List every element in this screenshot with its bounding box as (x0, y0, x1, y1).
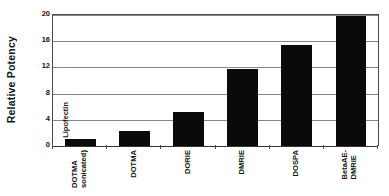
y-tick-label: 4 (32, 115, 50, 123)
x-tick-mark (269, 145, 270, 149)
bar-slot (270, 15, 324, 146)
x-tick-label: DMRIE (237, 150, 246, 174)
x-tick-label: BetaAE-DMRIE (340, 150, 359, 180)
x-tick-label-line2: DMRIE (350, 150, 359, 180)
bar-chart-figure: Relative Potency 048121620 Lipofectin DO… (0, 0, 389, 196)
x-tick-label: DOSPA (291, 150, 300, 176)
y-tick-label: 0 (32, 141, 50, 149)
x-tick-label-line1: DMRIE (237, 150, 246, 174)
x-tick-mark (52, 145, 53, 149)
x-label-slot: DMRIE (215, 150, 269, 196)
bar-slot (161, 15, 215, 146)
x-tick-label: DOTMA (129, 150, 138, 178)
bar (336, 16, 367, 146)
y-tick-label: 8 (32, 89, 50, 97)
x-label-slot: DOSPA (269, 150, 323, 196)
x-tick-label-line2: sonicated) (79, 150, 88, 188)
x-tick-label: DOTMAsonicated) (70, 150, 89, 188)
x-tick-label-line1: DOSPA (291, 150, 300, 176)
y-axis-tick-labels: 048121620 (30, 0, 50, 196)
bar-slot (324, 15, 378, 146)
x-tick-mark (323, 145, 324, 149)
x-label-slot: DOTMA (106, 150, 160, 196)
x-label-slot: DORIE (160, 150, 214, 196)
x-tick-mark (215, 145, 216, 149)
bar-slot (107, 15, 161, 146)
x-tick-label-line1: BetaAE- (340, 150, 349, 180)
plot-area (52, 14, 379, 146)
bar (173, 112, 204, 146)
y-tick-label: 16 (32, 36, 50, 44)
bar (119, 131, 150, 146)
bar-series (53, 15, 378, 146)
x-tick-mark (377, 145, 378, 149)
x-tick-label-line1: DOTMA (129, 150, 138, 178)
x-label-slot: DOTMAsonicated) (52, 150, 106, 196)
bar (227, 69, 258, 146)
y-axis-title-text: Relative Potency (5, 36, 17, 123)
y-tick-label: 20 (32, 10, 50, 18)
x-tick-mark (160, 145, 161, 149)
bar-slot (216, 15, 270, 146)
lipofectin-annotation-text: Lipofectin (61, 102, 70, 138)
x-tick-label: DORIE (183, 150, 192, 174)
x-tick-label-line1: DORIE (183, 150, 192, 174)
x-tick-label-line1: DOTMA (70, 160, 79, 188)
bar (281, 45, 312, 146)
x-tick-mark (106, 145, 107, 149)
y-tick-label: 12 (32, 63, 50, 71)
x-label-slot: BetaAE-DMRIE (323, 150, 377, 196)
lipofectin-annotation: Lipofectin (61, 84, 70, 138)
x-axis-tick-labels: DOTMAsonicated)DOTMADORIEDMRIEDOSPABetaA… (52, 150, 377, 196)
y-axis-title: Relative Potency (0, 14, 22, 145)
